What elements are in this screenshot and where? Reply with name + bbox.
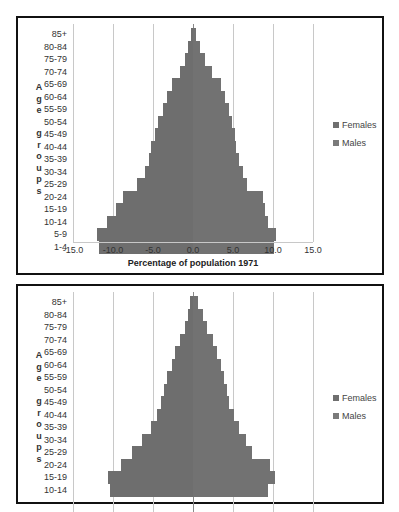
age-group-label: 5-9 — [27, 228, 67, 240]
y-axis-label-letter: s — [34, 454, 44, 466]
y-axis-label-letter: g — [34, 362, 44, 374]
age-group-label: 80-84 — [27, 309, 67, 321]
legend-swatch-icon — [333, 413, 339, 419]
male-bar — [137, 178, 193, 191]
chart-1-plot-area: 85+80-8475-7970-7465-6960-6455-5950-5445… — [18, 18, 382, 273]
y-axis-label-letter: g — [34, 94, 44, 106]
y-axis-label-letter: o — [34, 151, 44, 163]
age-group-label: 85+ — [27, 28, 67, 40]
age-group-label: 40-44 — [27, 409, 67, 421]
female-bar — [193, 191, 263, 204]
male-bar — [121, 459, 193, 472]
female-bar — [193, 41, 200, 54]
y-axis-label-letter: e — [34, 373, 44, 385]
male-bar — [180, 334, 193, 347]
female-bar — [193, 153, 239, 166]
male-bar — [180, 66, 193, 79]
legend: FemalesMales — [333, 116, 377, 152]
legend-swatch-icon — [333, 122, 339, 128]
x-tick-label: -10.0 — [98, 245, 128, 255]
age-group-label: 50-54 — [27, 116, 67, 128]
y-axis-label-letter: g — [34, 128, 44, 140]
female-bar — [193, 446, 252, 459]
female-bar — [193, 434, 246, 447]
legend-item-females: Females — [333, 116, 377, 134]
female-bar — [193, 296, 198, 309]
age-group-label: 45-49 — [27, 128, 67, 140]
female-bar — [193, 203, 265, 216]
male-bar — [167, 91, 193, 104]
female-bar — [193, 66, 212, 79]
y-axis-label-letter: u — [34, 163, 44, 175]
female-bar — [193, 103, 229, 116]
legend-item-males: Males — [333, 134, 377, 152]
y-axis-label-letter: e — [34, 105, 44, 117]
female-bar — [193, 371, 224, 384]
y-axis-label-letter: s — [34, 186, 44, 198]
age-group-label: 85+ — [27, 296, 67, 308]
age-group-label: 55-59 — [27, 371, 67, 383]
female-bar — [193, 78, 221, 91]
age-group-label: 70-74 — [27, 334, 67, 346]
x-tick-label: -5.0 — [138, 245, 168, 255]
male-bar — [142, 434, 193, 447]
legend: FemalesMales — [333, 389, 377, 425]
male-bar — [185, 321, 193, 334]
female-bar — [193, 216, 268, 229]
age-group-label: 60-64 — [27, 91, 67, 103]
y-axis-label-letter: p — [34, 442, 44, 454]
age-group-label: 40-44 — [27, 141, 67, 153]
male-bar — [132, 446, 193, 459]
male-bar — [185, 53, 193, 66]
female-bar — [193, 346, 217, 359]
age-group-label: 25-29 — [27, 446, 67, 458]
male-bar — [97, 228, 193, 241]
age-group-label: 20-24 — [27, 459, 67, 471]
age-group-label: 55-59 — [27, 103, 67, 115]
y-axis-label-letter: r — [34, 140, 44, 152]
chart-2-frame: 85+80-8475-7970-7465-6960-6455-5950-5445… — [16, 284, 384, 504]
female-bar — [193, 116, 232, 129]
age-group-label: 35-39 — [27, 421, 67, 433]
male-bar — [107, 216, 193, 229]
chart-1-frame: 85+80-8475-7970-7465-6960-6455-5950-5445… — [16, 16, 384, 275]
female-bar — [193, 421, 239, 434]
legend-label: Males — [342, 411, 366, 421]
x-tick-label: -15.0 — [58, 245, 88, 255]
female-bar — [193, 28, 196, 41]
female-bar — [193, 459, 270, 472]
male-bar — [110, 484, 193, 497]
y-axis-label-letter: A — [34, 350, 44, 362]
legend-item-females: Females — [333, 389, 377, 407]
male-bar — [161, 396, 193, 409]
female-bar — [193, 178, 247, 191]
gridline — [273, 24, 274, 242]
legend-item-males: Males — [333, 407, 377, 425]
female-bar — [193, 228, 276, 241]
male-bar — [116, 203, 193, 216]
female-bar — [193, 409, 234, 422]
male-bar — [175, 346, 193, 359]
female-bar — [193, 484, 268, 497]
legend-label: Females — [342, 393, 377, 403]
female-bar — [193, 166, 243, 179]
female-bar — [193, 321, 207, 334]
x-tick-label: 0.0 — [178, 245, 208, 255]
female-bar — [193, 471, 275, 484]
male-bar — [151, 141, 193, 154]
male-bar — [123, 191, 193, 204]
age-group-label: 30-34 — [27, 434, 67, 446]
legend-swatch-icon — [333, 140, 339, 146]
x-axis-line — [73, 242, 313, 243]
age-group-label: 15-19 — [27, 203, 67, 215]
y-axis-label-letter: g — [34, 396, 44, 408]
male-bar — [151, 421, 193, 434]
legend-label: Females — [342, 120, 377, 130]
female-bar — [193, 309, 203, 322]
gridline — [313, 24, 314, 242]
age-group-label: 30-34 — [27, 166, 67, 178]
male-bar — [163, 103, 193, 116]
chart-2-plot-area: 85+80-8475-7970-7465-6960-6455-5950-5445… — [18, 286, 382, 502]
x-tick-label: 15.0 — [298, 245, 328, 255]
male-bar — [155, 128, 193, 141]
